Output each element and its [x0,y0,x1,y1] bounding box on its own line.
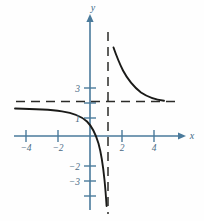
x-axis-label: x [189,130,195,141]
y-tick-label-3: 3 [74,84,80,94]
y-tick-label-neg3: −3 [69,177,80,187]
x-tick-label-2: 2 [120,143,125,153]
curve-left [15,109,107,207]
x-tick-label-4: 4 [152,143,157,153]
y-axis-label: y [90,2,96,13]
y-tick-label-1: 1 [75,114,80,124]
x-tick-label-neg4: −4 [20,143,31,153]
graph-figure: −4 −2 2 4 3 1 −2 −3 x y [0,0,204,221]
x-axis [14,132,186,139]
coordinate-plane: −4 −2 2 4 3 1 −2 −3 x y [0,0,204,221]
y-tick-label-neg2: −2 [69,162,80,172]
curve-left-branch [15,21,104,106]
curve-right [114,48,165,101]
x-tick-label-neg2: −2 [52,143,63,153]
